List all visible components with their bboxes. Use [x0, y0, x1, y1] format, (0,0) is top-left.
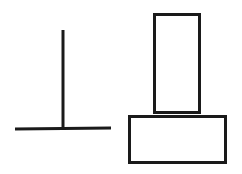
tall-rectangle: [155, 15, 200, 113]
diagram-canvas: [0, 0, 242, 174]
inverted-t-figure: [15, 30, 111, 129]
horizontal-base-line: [15, 128, 111, 129]
stacked-rectangles-figure: [130, 15, 226, 163]
wide-rectangle: [130, 117, 226, 163]
